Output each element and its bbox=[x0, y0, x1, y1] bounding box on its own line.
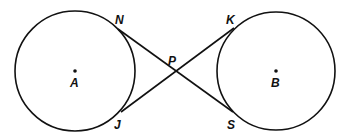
center-a-dot bbox=[73, 69, 77, 73]
label-k: K bbox=[226, 13, 236, 27]
label-n: N bbox=[115, 13, 124, 27]
geometry-diagram: N K P J S A B bbox=[0, 0, 344, 138]
label-a: A bbox=[69, 76, 79, 90]
label-p: P bbox=[168, 54, 177, 68]
center-b-dot bbox=[274, 69, 278, 73]
label-s: S bbox=[227, 118, 235, 132]
label-j: J bbox=[114, 118, 121, 132]
label-b: B bbox=[271, 76, 280, 90]
